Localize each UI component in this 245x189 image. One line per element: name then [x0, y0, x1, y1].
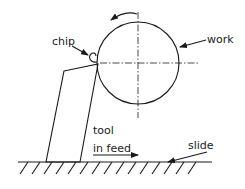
slide-ground: [18, 162, 212, 174]
chip-curl: [90, 53, 97, 62]
cutting-tool: [46, 64, 98, 162]
slide-label: slide: [188, 139, 214, 152]
machining-diagram: chip work tool in feed slide: [0, 0, 245, 189]
workpiece: [97, 12, 198, 118]
in-feed-label: in feed: [93, 142, 131, 155]
rotation-arrow-icon: [111, 13, 137, 20]
chip-label: chip: [52, 35, 75, 48]
work-leader-arrow: [180, 40, 206, 47]
slide-leader-arrow: [168, 152, 207, 162]
tool-label: tool: [93, 124, 114, 137]
hatching: [20, 162, 196, 174]
work-label: work: [207, 33, 234, 46]
